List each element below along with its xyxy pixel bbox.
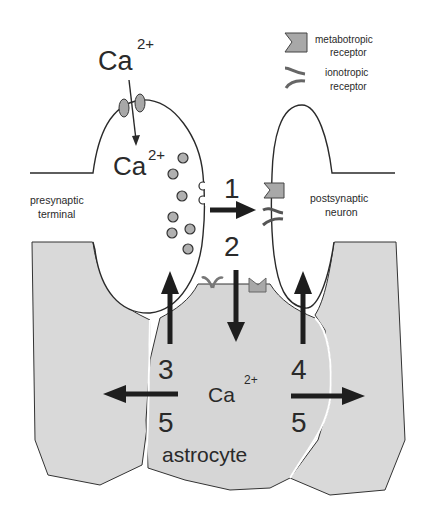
ionotropic-legend-icon — [285, 68, 305, 74]
ca-astrocyte-label: Ca — [208, 383, 235, 406]
presynaptic-label: presynaptic — [30, 194, 84, 206]
postsynaptic-label-2: neuron — [325, 206, 358, 218]
metabotropic-legend-label-2: receptor — [330, 47, 367, 58]
ca-extracellular-superscript: 2+ — [137, 35, 154, 52]
calcium-channel — [119, 99, 129, 117]
step-4-label: 4 — [291, 354, 307, 385]
ca-astrocyte-superscript: 2+ — [244, 373, 258, 387]
step-5-right-label: 5 — [291, 407, 307, 438]
step-2-label: 2 — [224, 231, 240, 262]
ionotropic-legend-label: ionotropic — [325, 67, 368, 78]
astrocyte-label: astrocyte — [162, 443, 247, 466]
presynaptic-label-2: terminal — [38, 208, 75, 220]
calcium-channel — [135, 94, 145, 112]
metabotropic-receptor-astro — [249, 278, 266, 292]
step-1-label: 1 — [224, 173, 240, 204]
step-5-left-label: 5 — [158, 407, 174, 438]
step-3-label: 3 — [158, 354, 174, 385]
ca-extracellular-label: Ca — [98, 46, 133, 76]
ionotropic-legend-label-2: receptor — [330, 81, 367, 92]
metabotropic-legend-label: metabotropic — [315, 34, 373, 45]
metabotropic-receptor-post — [264, 183, 284, 198]
metabotropic-legend-icon — [285, 33, 307, 52]
ca-intracellular-label: Ca — [113, 151, 147, 181]
synapse-diagram: Ca 2+ Ca 2+ presynaptic terminal postsyn… — [0, 0, 423, 513]
ionotropic-legend-icon — [286, 81, 305, 88]
postsynaptic-label: postsynaptic — [310, 192, 368, 204]
ca-intracellular-superscript: 2+ — [148, 146, 165, 163]
